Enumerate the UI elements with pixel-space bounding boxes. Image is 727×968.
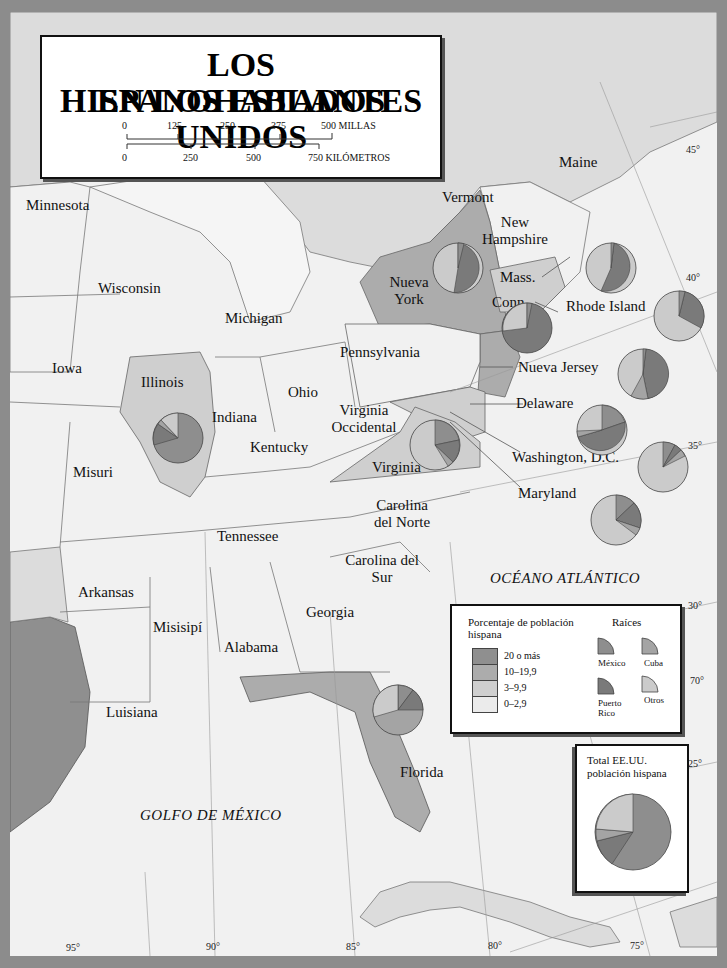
- lat-label-25: 25°: [688, 758, 702, 769]
- lat-label-30: 30°: [688, 600, 702, 611]
- total-title-line1: Total EE.UU.: [587, 754, 647, 766]
- pie-new-jersey: [616, 347, 670, 401]
- scale-km-500: 500: [246, 152, 261, 163]
- state-label-indiana: Indiana: [212, 409, 257, 426]
- legend-root-mexico: México: [598, 657, 626, 669]
- state-label-minnesota: Minnesota: [26, 197, 89, 214]
- state-label-ohio: Ohio: [288, 384, 318, 401]
- state-label-south-carolina-line2: Sur: [372, 569, 393, 585]
- legend-percent-title-line2: hispana: [468, 628, 502, 640]
- state-label-west-virginia-line2: Occidental: [332, 419, 397, 435]
- lat-label-40: 40°: [686, 272, 700, 283]
- state-label-maryland: Maryland: [518, 485, 576, 502]
- pie-connecticut: [500, 301, 554, 355]
- state-label-west-virginia: VirginiaOccidental: [328, 402, 400, 436]
- state-label-new-jersey: Nueva Jersey: [518, 359, 598, 376]
- state-label-kentucky: Kentucky: [250, 439, 308, 456]
- state-label-south-carolina-line1: Carolina del: [345, 552, 419, 568]
- scale-miles-0: 0: [122, 120, 127, 131]
- pie-new-york: [431, 241, 485, 295]
- state-label-georgia: Georgia: [306, 604, 354, 621]
- state-label-new-hampshire-line1: New: [501, 214, 529, 230]
- pie-illinois: [151, 411, 205, 465]
- legend-box: Porcentaje de población hispana 20 o más…: [450, 604, 682, 734]
- legend-root-cuba: Cuba: [644, 657, 663, 669]
- gulf-of-mexico-label: GOLFO DE MÉXICO: [140, 807, 282, 824]
- lon-label-85: 85°: [346, 941, 360, 952]
- state-label-new-york: NuevaYork: [384, 274, 434, 308]
- state-label-arkansas: Arkansas: [78, 584, 134, 601]
- otros-wedge-icon: [642, 676, 658, 692]
- state-label-illinois: Illinois: [141, 374, 184, 391]
- cuba-wedge-icon: [642, 638, 658, 654]
- lon-label-70: 70°: [690, 675, 704, 686]
- state-label-rhode-island: Rhode Island: [566, 298, 646, 315]
- state-label-wisconsin: Wisconsin: [98, 280, 161, 297]
- legend-swatch-10-19: [472, 664, 498, 681]
- legend-swatch-3-9: [472, 680, 498, 697]
- pie-florida: [371, 683, 425, 737]
- legend-swatch-0-2: [472, 696, 498, 713]
- state-label-vermont: Vermont: [442, 189, 494, 206]
- state-label-north-carolina-line2: del Norte: [374, 514, 430, 530]
- legend-roots-icons: [596, 636, 676, 706]
- pie-virginia: [408, 418, 462, 472]
- total-us-box: Total EE.UU. población hispana: [575, 744, 689, 893]
- scale-km-250: 250: [183, 152, 198, 163]
- state-label-south-carolina: Carolina delSur: [340, 552, 424, 586]
- state-label-alabama: Alabama: [224, 639, 278, 656]
- state-label-mass: Mass.: [500, 269, 535, 286]
- legend-swatch-20-plus: [472, 648, 498, 665]
- lat-label-35: 35°: [688, 440, 702, 451]
- legend-roots-title: Raíces: [612, 616, 641, 628]
- pie-massachusetts: [584, 241, 638, 295]
- state-label-new-hampshire-line2: Hampshire: [482, 231, 548, 247]
- atlantic-ocean-label: OCÉANO ATLÁNTICO: [490, 570, 640, 587]
- legend-class-label: 0–2,9: [504, 698, 527, 710]
- state-label-michigan: Michigan: [225, 310, 283, 327]
- legend-class-label: 20 o más: [504, 650, 540, 662]
- puerto-rico-wedge-icon: [598, 678, 614, 694]
- state-label-pennsylvania: Pennsylvania: [340, 344, 420, 361]
- scale-miles-125: 125: [167, 120, 182, 131]
- state-label-new-york-line1: Nueva: [389, 274, 428, 290]
- map-canvas: Minnesota Wisconsin Michigan Iowa Illino…: [10, 12, 717, 956]
- pie-rhode-island: [652, 289, 706, 343]
- state-label-florida: Florida: [400, 764, 443, 781]
- state-label-new-hampshire: NewHampshire: [482, 214, 548, 248]
- legend-class-label: 10–19,9: [504, 666, 537, 678]
- state-label-louisiana: Luisiana: [106, 704, 158, 721]
- legend-root-otros: Otros: [644, 694, 664, 706]
- state-label-west-virginia-line1: Virginia: [340, 402, 389, 418]
- state-label-north-carolina: Carolinadel Norte: [366, 497, 438, 531]
- lon-label-80: 80°: [488, 940, 502, 951]
- pie-washington-dc: [636, 440, 690, 494]
- state-label-delaware: Delaware: [516, 395, 573, 412]
- lon-label-95: 95°: [66, 942, 80, 953]
- state-label-mississippi: Misisipí: [153, 619, 202, 636]
- lat-label-45: 45°: [686, 144, 700, 155]
- lon-label-90: 90°: [206, 941, 220, 952]
- scale-miles-500: 500 MILLAS: [321, 120, 376, 131]
- legend-root-puerto-rico-line2: Rico: [598, 707, 615, 719]
- total-title-line2: población hispana: [587, 767, 667, 779]
- scale-km-750: 750 KILÓMETROS: [308, 152, 390, 163]
- pie-delaware: [575, 403, 629, 457]
- state-label-maine: Maine: [559, 154, 597, 171]
- state-label-tennessee: Tennessee: [217, 528, 278, 545]
- state-label-iowa: Iowa: [52, 360, 82, 377]
- state-label-missouri: Misuri: [73, 464, 113, 481]
- pie-total-us: [593, 792, 673, 872]
- legend-percent-title-line1: Porcentaje de población: [468, 616, 574, 628]
- scale-km-0: 0: [122, 152, 127, 163]
- pie-maryland: [589, 493, 643, 547]
- state-label-new-york-line2: York: [394, 291, 423, 307]
- state-label-north-carolina-line1: Carolina: [376, 497, 428, 513]
- title-box: LOS HISPANOHABLANTES EN LOS ESTADOS UNID…: [40, 35, 442, 179]
- legend-class-label: 3–9,9: [504, 682, 527, 694]
- scale-miles-375: 375: [271, 120, 286, 131]
- scale-miles-250: 250: [220, 120, 235, 131]
- mexico-wedge-icon: [598, 638, 614, 654]
- lon-label-75: 75°: [630, 940, 644, 951]
